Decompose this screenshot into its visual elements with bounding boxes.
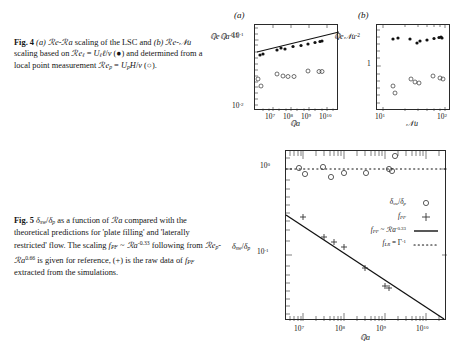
panel-a-open-points [256, 69, 324, 88]
figure-5-legend-markers [414, 200, 438, 245]
figure-5-y-right-ticks [442, 169, 447, 255]
figure-page: Fig. 4 (a) ℛe-ℛa scaling of the LSC and … [0, 0, 459, 364]
figure-5-plot-area [285, 150, 446, 320]
panel-a-ytick-1: 10-2 [232, 101, 244, 110]
figure-5-xtick-2: 109 [376, 324, 386, 333]
panel-b-filled-points [391, 35, 443, 44]
figure-5-xlabel: ℚa [360, 333, 370, 342]
figure-5-y-minor-ticks [286, 158, 292, 314]
figure-5-legend-label-3: fLR = Γ-1 [288, 239, 406, 247]
panel-b-xtick-0: 101 [375, 112, 385, 121]
figure-5-legend-label-1: fPF [308, 212, 406, 220]
panel-a-filled-points [258, 39, 323, 56]
panel-a-ytick-0: 10-1 [232, 31, 244, 40]
panel-a-y-minor-ticks [255, 28, 259, 105]
panel-a-x-top-ticks [273, 25, 327, 28]
figure-5-plot: δsw/δp [248, 146, 454, 362]
figure-5-x-minor-ticks [290, 313, 439, 321]
panel-b-xlabel: 𝒩u [406, 119, 418, 129]
panel-b-x-minor-ticks [383, 107, 445, 111]
figure-4-caption-lead: Fig. 4 [14, 38, 34, 47]
figure-5-svg [286, 151, 447, 321]
panel-b-y-minor-ticks [377, 30, 381, 103]
figure-4-panel-a: (a) ℚeℚa-0.5 [238, 12, 338, 127]
panel-a-label: (a) [234, 10, 245, 20]
figure-5-caption: Fig. 5 δsw/δp as a function of ℛa compar… [14, 216, 224, 278]
panel-a-x-minor-ticks [263, 107, 333, 111]
panel-b-svg [377, 25, 451, 111]
figure-5-circle-points [296, 153, 397, 179]
figure-5-legend-label-0: δsw/δp [308, 198, 406, 206]
legend-plus-marker [422, 213, 430, 221]
panel-b-ytick-0: 1 [367, 59, 371, 68]
legend-circle-marker [423, 200, 428, 205]
panel-b-xtick-1: 102 [437, 112, 447, 121]
figure-4-caption: Fig. 4 (a) ℛe-ℛa scaling of the LSC and … [14, 38, 214, 73]
figure-5-ylabel: δsw/δp [232, 242, 250, 251]
figure-5-xtick-3: 1010 [416, 324, 428, 333]
panel-b-ylabel: ℚe𝒩u-2 [334, 32, 360, 42]
figure-5-ytick-1: 10-1 [257, 247, 269, 256]
figure-5-x-top-ticks [290, 151, 439, 159]
panel-a-xlabel: ℚa [290, 119, 300, 128]
panel-a-plot-area [254, 24, 338, 110]
figure-5-xtick-1: 108 [335, 324, 345, 333]
figure-4-panel-b: (b) ℚe𝒩u-2 [362, 12, 452, 127]
figure-5-xtick-0: 107 [294, 324, 304, 333]
figure-5-legend-label-2: fPF ~ ℛa-0.33 [288, 225, 406, 234]
panel-a-svg [255, 25, 339, 111]
figure-5-caption-lead: Fig. 5 [14, 216, 34, 225]
panel-a-xtick-0: 107 [265, 112, 275, 121]
panel-a-xtick-3: 1010 [319, 112, 331, 121]
panel-b-x-top-ticks [383, 25, 445, 28]
panel-b-label: (b) [358, 10, 369, 20]
panel-b-plot-area [376, 24, 450, 110]
panel-a-xtick-2: 109 [301, 112, 311, 121]
panel-a-fit-line [257, 32, 339, 52]
figure-4-caption-body: (a) ℛe-ℛa scaling of the LSC and (b) ℛe-… [14, 38, 202, 70]
figure-5-caption-body: δsw/δp as a function of ℛa compared with… [14, 216, 221, 277]
figure-5-ytick-0: 100 [260, 161, 270, 170]
panel-b-open-points [391, 74, 445, 95]
